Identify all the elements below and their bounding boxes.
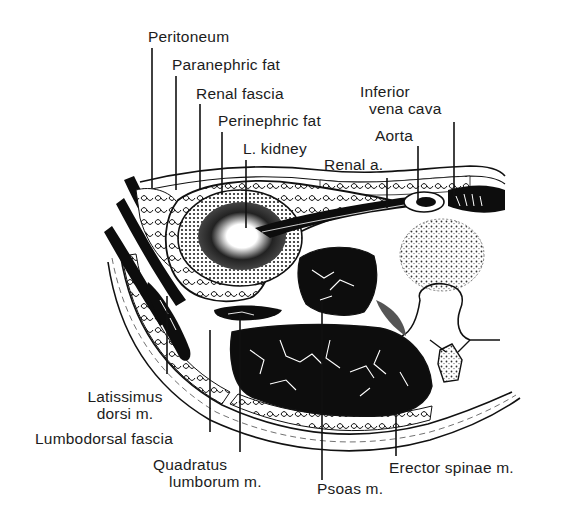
- label-paranephric-fat: Paranephric fat: [172, 56, 280, 73]
- anatomy-diagram: [0, 0, 576, 526]
- label-latissimus-line2: dorsi m.: [70, 405, 180, 422]
- label-quadratus-line1: Quadratus: [153, 456, 262, 473]
- label-peritoneum: Peritoneum: [148, 28, 229, 45]
- label-latissimus-line1: Latissimus: [70, 388, 180, 405]
- label-quadratus-lumborum: Quadratus lumborum m.: [153, 456, 262, 490]
- psoas-muscle: [298, 247, 377, 315]
- label-l-kidney: L. kidney: [243, 140, 307, 157]
- label-inferior-vena-cava: Inferior vena cava: [360, 83, 441, 117]
- label-erector-spinae: Erector spinae m.: [389, 459, 514, 476]
- label-renal-artery: Renal a.: [324, 156, 383, 173]
- label-aorta: Aorta: [375, 127, 413, 144]
- label-quadratus-line2: lumborum m.: [153, 473, 262, 490]
- label-latissimus-dorsi: Latissimus dorsi m.: [70, 388, 180, 422]
- label-psoas: Psoas m.: [317, 480, 383, 497]
- label-ivc-line2: vena cava: [360, 100, 441, 117]
- label-lumbodorsal-fascia: Lumbodorsal fascia: [35, 430, 173, 447]
- label-perinephric-fat: Perinephric fat: [218, 112, 321, 129]
- label-renal-fascia: Renal fascia: [196, 85, 284, 102]
- label-ivc-line1: Inferior: [360, 83, 441, 100]
